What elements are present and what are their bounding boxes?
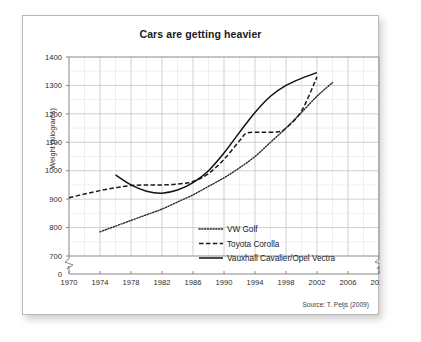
plot-area: Weight (kilograms) 070080090010001100120… bbox=[23, 16, 380, 316]
y-tick-label: 1000 bbox=[45, 166, 62, 175]
y-tick-label: 800 bbox=[49, 223, 62, 232]
x-tick-label: 1974 bbox=[92, 278, 109, 287]
legend-label: Vauxhall Cavalier/Opel Vectra bbox=[227, 254, 336, 263]
source-note: Source: T. Peijs (2009) bbox=[302, 301, 369, 308]
x-tick-label: 1970 bbox=[61, 278, 78, 287]
chart-card: Cars are getting heavier Weight (kilogra… bbox=[22, 15, 379, 315]
y-tick-label: 1400 bbox=[45, 53, 62, 62]
data-series bbox=[69, 73, 333, 232]
x-tick-label: 1982 bbox=[154, 278, 171, 287]
y-tick-label: 1300 bbox=[45, 81, 62, 90]
y-tick-label: 1100 bbox=[46, 138, 62, 147]
x-tick-label: 2006 bbox=[340, 278, 357, 287]
legend: VW GolfToyota CorollaVauxhall Cavalier/O… bbox=[199, 225, 336, 263]
series-line-dotted bbox=[100, 83, 333, 232]
y-tick-label: 1200 bbox=[45, 110, 62, 119]
series-line-solid bbox=[116, 73, 318, 194]
x-tick-label: 1986 bbox=[185, 278, 202, 287]
x-tick-label: 1978 bbox=[123, 278, 140, 287]
legend-label: VW Golf bbox=[227, 225, 258, 234]
x-tick-label: 2002 bbox=[309, 278, 326, 287]
y-tick-label: 900 bbox=[49, 195, 62, 204]
y-tick-label: 700 bbox=[49, 252, 62, 261]
legend-label: Toyota Corolla bbox=[227, 240, 280, 249]
x-tick-label: 1990 bbox=[216, 278, 233, 287]
screenshot-root: Cars are getting heavier Weight (kilogra… bbox=[0, 0, 421, 342]
x-tick-label: 1998 bbox=[278, 278, 295, 287]
x-tick-label: 1994 bbox=[247, 278, 264, 287]
chart-svg: 0700800900100011001200130014001970197419… bbox=[23, 16, 380, 316]
x-tick-label: 2010 bbox=[371, 278, 380, 287]
